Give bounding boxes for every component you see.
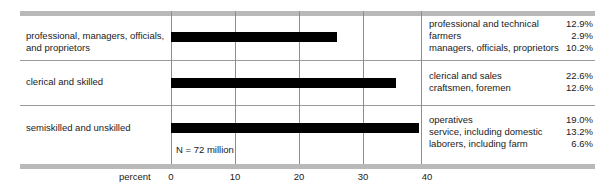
category-label-semiskilled: semiskilled and unskilled — [26, 122, 166, 134]
breakdown-label: operatives — [429, 114, 477, 126]
breakdown-row: farmers 2.9% — [429, 30, 593, 42]
breakdown-label: professional and technical — [429, 18, 543, 30]
breakdown-group-clerical: clerical and sales 22.6% craftsmen, fore… — [429, 70, 593, 94]
breakdown-row: clerical and sales 22.6% — [429, 70, 593, 82]
bar-clerical — [171, 78, 396, 88]
breakdown-label: craftsmen, foremen — [429, 82, 515, 94]
breakdown-row: managers, officials, proprietors 10.2% — [429, 42, 593, 54]
category-label-line2: and proprietors — [26, 42, 166, 54]
breakdown-label: clerical and sales — [429, 70, 506, 82]
x-axis-title: percent — [119, 171, 151, 182]
bar-professional — [171, 32, 337, 42]
breakdown-value: 12.9% — [566, 18, 593, 30]
breakdown-value: 2.9% — [571, 30, 593, 42]
breakdown-label: farmers — [429, 30, 465, 42]
breakdown-label: laborers, including farm — [429, 138, 532, 150]
breakdown-row: operatives 19.0% — [429, 114, 593, 126]
category-label-professional: professional, managers, officials, and p… — [26, 30, 166, 53]
category-label-line1: professional, managers, officials, — [26, 30, 166, 42]
category-label-clerical: clerical and skilled — [26, 76, 166, 88]
breakdown-group-professional: professional and technical 12.9% farmers… — [429, 18, 593, 55]
x-tick-30: 30 — [358, 171, 369, 182]
breakdown-row: professional and technical 12.9% — [429, 18, 593, 30]
bar-semiskilled — [171, 123, 419, 133]
x-tick-20: 20 — [294, 171, 305, 182]
bottom-rule-band — [20, 164, 595, 169]
plot-table-divider — [421, 11, 422, 164]
breakdown-value: 19.0% — [566, 114, 593, 126]
breakdown-value: 10.2% — [566, 42, 593, 54]
breakdown-label: service, including domestic — [429, 126, 547, 138]
breakdown-row: craftsmen, foremen 12.6% — [429, 82, 593, 94]
x-tick-0: 0 — [168, 171, 173, 182]
category-label-line1: clerical and skilled — [26, 76, 166, 88]
breakdown-value: 22.6% — [566, 70, 593, 82]
x-tick-10: 10 — [230, 171, 241, 182]
x-tick-40: 40 — [422, 171, 433, 182]
breakdown-value: 13.2% — [566, 126, 593, 138]
sample-size-annotation: N = 72 million — [176, 144, 234, 155]
breakdown-row: laborers, including farm 6.6% — [429, 138, 593, 150]
category-label-line1: semiskilled and unskilled — [26, 122, 166, 134]
breakdown-label: managers, officials, proprietors — [429, 42, 563, 54]
breakdown-value: 6.6% — [571, 138, 593, 150]
breakdown-group-semiskilled: operatives 19.0% service, including dome… — [429, 114, 593, 151]
breakdown-value: 12.6% — [566, 82, 593, 94]
breakdown-row: service, including domestic 13.2% — [429, 126, 593, 138]
